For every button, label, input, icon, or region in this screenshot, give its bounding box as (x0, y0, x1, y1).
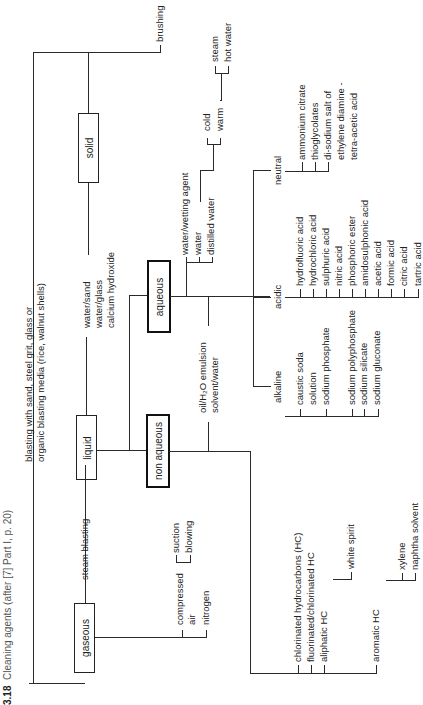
liquid-water-stub (86, 337, 87, 415)
label-calcium-hydroxide: calcium hydroxide (106, 252, 116, 328)
tick-water (199, 257, 200, 263)
liquid-subgroup-trunk (129, 295, 130, 451)
tick-aromatic (376, 665, 377, 673)
tick-alk-1 (326, 409, 327, 416)
label-solvent-water: solvent/water (210, 357, 220, 413)
caption-text: Cleaning agents (after [7] Part I, p. 20… (2, 510, 13, 680)
label-air: air (187, 614, 197, 625)
alkaline-bracket (285, 416, 379, 417)
tick-acid-2 (326, 289, 327, 297)
label-sulphuric: sulphuric acid (321, 228, 331, 286)
label-fluorinated-hc: fluorinated/chlorinated HC (306, 552, 316, 662)
tick-xylene (402, 573, 403, 581)
root-bottom-branch (29, 683, 85, 684)
tick-suction (176, 555, 177, 563)
acidic-connector (253, 297, 271, 298)
temp-link-v (213, 145, 214, 171)
label-blowing: blowing (184, 521, 194, 553)
aqueous-connector (129, 295, 148, 296)
label-ethylene-diamine: ethylene diamine - (336, 82, 346, 160)
label-steam: steam (210, 36, 220, 62)
air-connector (176, 562, 190, 563)
label-tartric: tartric acid (413, 242, 423, 286)
label-distilled-water: distilled water (206, 197, 216, 255)
tick-compressed (182, 630, 183, 638)
label-ammonium-citrate: ammonium citrate (297, 85, 307, 161)
tick-acid-6 (378, 289, 379, 297)
tick-blowing (190, 555, 191, 563)
tick-thioglycolates (315, 162, 316, 171)
gaseous-node: gaseous (74, 603, 95, 673)
label-aromatic-hc: aromatic HC (371, 609, 381, 662)
tick-acid-5 (365, 289, 366, 297)
non-aqueous-node: non aqueous (146, 414, 170, 488)
label-acetic: acetic acid (373, 241, 383, 286)
label-sodium-polyphosphate: sodium polyphosphate (347, 310, 357, 405)
tick-hot-water (228, 66, 229, 74)
label-sodium-silicate: sodium silicate (359, 343, 369, 405)
tick-aliphatic (324, 665, 325, 673)
label-hot-water: hot water (223, 23, 233, 62)
solid-connector-bottom (88, 183, 89, 255)
non-aqueous-trunk (250, 451, 251, 674)
label-suction: suction (171, 523, 181, 553)
tick-disodium (328, 162, 329, 171)
label-blasting-1: blasting with sand, steel grit, glass or (24, 307, 34, 462)
steam-bracket (215, 73, 229, 74)
tick-acid-4 (352, 289, 353, 297)
label-amidosulphonic: amidosulphonic acid (360, 200, 370, 286)
tick-alk-4 (378, 409, 379, 416)
label-compressed: compressed (175, 573, 185, 625)
label-acidic: acidic (273, 285, 283, 309)
water-bracket-stem (186, 262, 187, 296)
label-neutral: neutral (273, 156, 283, 185)
label-thioglycolates: thioglycolates (310, 102, 320, 160)
label-water-wetting-agent: water/wetting agent (180, 173, 190, 255)
white-spirit-connector (333, 579, 351, 580)
tick-acid-7 (391, 289, 392, 297)
label-naphtha-solvent: naphtha solvent (410, 503, 420, 570)
tick-acid-0 (300, 289, 301, 297)
tick-acid-1 (313, 289, 314, 297)
neutral-connector (253, 170, 271, 171)
aromatic-connector (386, 580, 416, 581)
label-cold: cold (202, 114, 212, 131)
label-brushing: brushing (155, 6, 165, 42)
label-water-glass: water/glass (94, 280, 104, 328)
type-trunk (253, 170, 254, 387)
label-alkaline: alkaline (273, 371, 283, 403)
label-phosphoric-ester: phosphoric ester (347, 216, 357, 286)
label-oil-emulsion: oil/H₂O emulsion (198, 342, 208, 413)
gaseous-branch (95, 637, 207, 638)
emulsion-stub (208, 296, 209, 326)
tick-nitrogen (206, 630, 207, 638)
tick-acid-9 (418, 289, 419, 297)
label-xylene: xylene (397, 543, 407, 570)
figure-caption: 3.18 Cleaning agents (after [7] Part I, … (2, 510, 13, 705)
temp-link (200, 170, 213, 171)
label-steam-blasting: steam blasting (80, 519, 90, 580)
label-hydrochloric: hydrochloric acid (308, 215, 318, 286)
label-nitric: nitric acid (334, 246, 344, 286)
tick-fluorinated (311, 665, 312, 673)
brushing-stub (160, 45, 161, 53)
label-water: water (193, 232, 203, 255)
label-disodium-salt: di-sodium salt of (323, 91, 333, 160)
label-sodium-phosphate: sodium phosphate (321, 327, 331, 405)
tick-alk-0 (300, 409, 301, 416)
liquid-node: liquid (76, 415, 97, 480)
tick-water-wetting (186, 257, 187, 263)
tick-naphtha (415, 573, 416, 581)
tick-cold (207, 138, 208, 145)
figure-number: 3.18 (2, 686, 13, 705)
label-water-sand: water/sand (82, 282, 92, 328)
neutral-bracket (285, 171, 329, 172)
label-chlorinated-hc: chlorinated hydrocarbons (HC) (293, 533, 303, 662)
label-warm: warm (215, 108, 225, 131)
liquid-branch (97, 450, 147, 451)
tick-warm (220, 138, 221, 145)
tick-ammonium (302, 162, 303, 171)
tick-alk-3 (364, 409, 365, 416)
tick-chlorinated (298, 665, 299, 673)
tick-acid-3 (339, 289, 340, 297)
